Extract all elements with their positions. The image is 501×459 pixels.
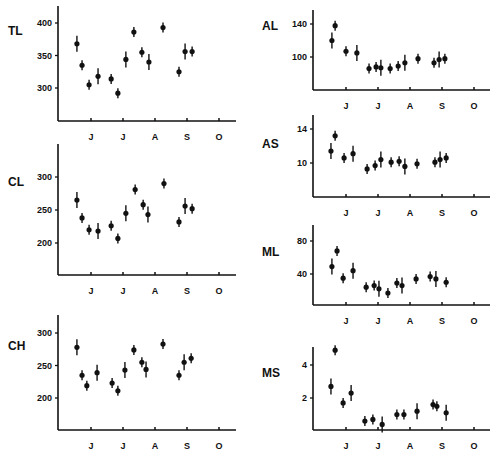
data-point	[94, 365, 99, 381]
month-label: O	[470, 208, 477, 218]
month-label: O	[470, 441, 477, 451]
data-point	[437, 152, 442, 168]
month-label: A	[152, 286, 159, 296]
y-tick-label: 200	[37, 393, 52, 403]
data-point	[160, 23, 165, 33]
month-label: O	[215, 132, 222, 142]
data-point	[396, 61, 401, 71]
data-point	[79, 213, 84, 223]
data-point	[437, 51, 442, 67]
data-point	[115, 233, 120, 243]
data-point	[161, 179, 166, 189]
month-label: A	[407, 208, 414, 218]
data-point	[79, 60, 84, 70]
data-point	[434, 401, 439, 411]
data-point	[402, 158, 407, 174]
data-point	[109, 74, 114, 84]
data-point	[394, 278, 399, 288]
data-point	[373, 161, 378, 171]
data-point	[365, 164, 370, 174]
data-point	[176, 67, 181, 77]
y-tick-label: 4	[302, 360, 307, 370]
panel-label: CH	[8, 339, 25, 353]
data-point	[401, 410, 406, 420]
data-point	[84, 381, 89, 391]
y-tick-label: 400	[37, 18, 52, 28]
month-label: J	[88, 286, 93, 296]
panel-tl: TL300350400JJASO	[8, 6, 236, 142]
month-label: A	[407, 316, 414, 326]
panel-ch: CH200250300JJASO	[8, 315, 236, 451]
month-label: A	[152, 441, 159, 451]
data-point	[109, 221, 114, 231]
y-tick-label: 10	[297, 158, 307, 168]
month-label: S	[184, 286, 190, 296]
panel-al: AL100140JJASO	[262, 10, 490, 111]
data-point	[428, 271, 433, 281]
figure-panels: TL300350400JJASOCL200250300JJASOCH200250…	[0, 0, 501, 459]
data-point	[190, 47, 195, 57]
month-label: J	[120, 132, 125, 142]
data-point	[414, 403, 419, 419]
panel-label: MS	[262, 366, 280, 380]
data-point	[176, 217, 181, 227]
data-point	[95, 223, 100, 239]
data-point	[143, 361, 148, 377]
data-point	[372, 281, 377, 291]
data-point	[378, 60, 383, 76]
data-point	[329, 259, 334, 275]
data-point	[388, 64, 393, 74]
panel-label: ML	[262, 245, 279, 259]
data-point	[402, 55, 407, 71]
data-point	[366, 64, 371, 74]
data-point	[431, 58, 436, 68]
month-label: J	[120, 286, 125, 296]
data-point	[399, 278, 404, 294]
month-label: A	[407, 101, 414, 111]
data-point	[370, 414, 375, 424]
data-point	[131, 27, 136, 37]
y-tick-label: 250	[37, 205, 52, 215]
panel-as: AS1014JJASO	[262, 115, 490, 218]
data-point	[146, 54, 151, 70]
data-point	[190, 204, 195, 214]
data-point	[110, 378, 115, 388]
data-point	[373, 62, 378, 72]
month-label: S	[439, 101, 445, 111]
month-label: J	[88, 441, 93, 451]
data-point	[123, 51, 128, 67]
data-point	[176, 370, 181, 380]
month-label: J	[343, 441, 348, 451]
data-point	[432, 157, 437, 167]
month-label: O	[470, 316, 477, 326]
month-label: J	[343, 316, 348, 326]
data-point	[115, 88, 120, 98]
data-point	[364, 282, 369, 292]
data-point	[444, 153, 449, 163]
data-point	[329, 33, 334, 49]
data-point	[139, 47, 144, 57]
data-point	[182, 198, 187, 214]
data-point	[394, 410, 399, 420]
month-label: O	[470, 101, 477, 111]
data-point	[123, 205, 128, 221]
y-tick-label: 40	[297, 269, 307, 279]
data-point	[328, 378, 333, 394]
data-point	[444, 277, 449, 287]
data-point	[376, 281, 381, 297]
data-point	[145, 207, 150, 223]
y-tick-label: 300	[37, 172, 52, 182]
data-point	[389, 157, 394, 167]
data-point	[415, 54, 420, 64]
data-point	[341, 398, 346, 408]
y-tick-label: 14	[297, 124, 307, 134]
data-point	[141, 200, 146, 210]
panel-label: AS	[262, 137, 279, 151]
data-point	[349, 385, 354, 401]
data-point	[131, 345, 136, 355]
panel-ml: ML4080JJASO	[262, 225, 490, 326]
month-label: J	[343, 101, 348, 111]
data-point	[341, 153, 346, 163]
data-point	[433, 271, 438, 287]
month-label: S	[439, 441, 445, 451]
